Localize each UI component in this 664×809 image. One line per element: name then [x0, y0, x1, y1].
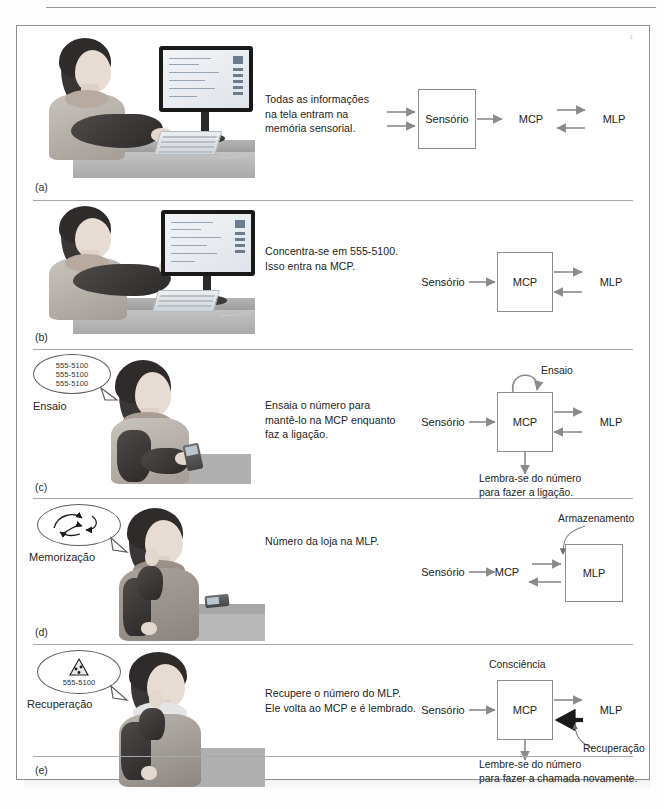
node-mlp-c-label: MLP	[600, 416, 623, 428]
panel-e-rule	[33, 756, 633, 757]
annotation-ensaio-c: Ensaio	[541, 364, 573, 378]
node-sensorio-a-label: Sensório	[425, 113, 468, 125]
scene-d-woman-thinking-phone-on-desk	[105, 506, 265, 641]
annotation-lembre-e-line-1: Lembre-se do número	[479, 758, 637, 772]
node-mlp-b: MLP	[589, 272, 633, 292]
bubble-c-line-1: 555-5100	[56, 361, 89, 370]
node-sensorio-e: Sensório	[417, 700, 469, 720]
node-mlp-d-label: MLP	[583, 567, 606, 579]
node-sensorio-b-label: Sensório	[421, 276, 464, 288]
caption-a-line-2: na tela entram na	[265, 107, 395, 122]
node-mcp-c: MCP	[497, 392, 553, 452]
bubble-c-label: Ensaio	[33, 400, 67, 412]
caption-b: Concentra-se em 555-5100. Isso entra na …	[265, 244, 435, 273]
figure-page: ¹	[0, 0, 664, 809]
keyboard-icon	[154, 131, 223, 155]
diagram-e: Consciência Sensório MCP MLP Recuperação…	[417, 650, 637, 780]
annotation-recuperacao-e: Recuperação	[583, 742, 645, 756]
panel-d-letter: (d)	[35, 626, 48, 638]
node-sensorio-c-label: Sensório	[421, 416, 464, 428]
node-mcp-e: MCP	[497, 680, 553, 740]
panel-d-rule	[33, 644, 633, 645]
node-mcp-c-label: MCP	[513, 416, 537, 428]
node-mcp-a: MCP	[509, 109, 553, 129]
panel-c-rule	[33, 498, 633, 499]
node-mcp-b-label: MCP	[513, 276, 537, 288]
node-sensorio-e-label: Sensório	[421, 704, 464, 716]
node-mlp-a: MLP	[592, 109, 636, 129]
scene-a-woman-typing-at-computer	[43, 32, 253, 177]
node-mlp-b-label: MLP	[600, 276, 623, 288]
node-sensorio-a: Sensório	[418, 89, 476, 149]
panel-c-letter: (c)	[35, 481, 47, 493]
swirl-arrows-icon	[48, 510, 110, 540]
node-mlp-e-label: MLP	[600, 704, 623, 716]
caption-a-line-3: memória sensorial.	[265, 121, 395, 136]
bubble-c-line-2: 555-5100	[56, 370, 89, 379]
diagram-a: Sensório MCP MLP	[387, 76, 637, 166]
corner-mark: ¹	[630, 36, 635, 42]
node-mcp-e-label: MCP	[513, 704, 537, 716]
node-sensorio-c: Sensório	[417, 412, 469, 432]
scene-e-woman-on-phone-call	[105, 652, 265, 787]
phone-on-desk-icon	[204, 594, 229, 608]
node-mcp-d: MCP	[485, 562, 529, 582]
node-mcp-b: MCP	[497, 252, 553, 312]
panel-a-rule	[33, 200, 633, 201]
caption-a-line-1: Todas as informações	[265, 92, 395, 107]
pizza-slice-icon	[67, 657, 91, 677]
annotation-armazenamento-d: Armazenamento	[558, 512, 634, 526]
node-sensorio-d: Sensório	[417, 562, 469, 582]
annotation-lembre-e-line-2: para fazer a chamada novamente.	[479, 772, 637, 786]
caption-c-line-2: mantê-lo na MCP enquanto	[265, 413, 441, 428]
caption-c-line-1: Ensaia o número para	[265, 398, 441, 413]
node-mlp-e: MLP	[589, 700, 633, 720]
scene-b-woman-pointing-at-screen	[43, 202, 253, 334]
diagram-b: Sensório MCP MLP	[417, 238, 637, 326]
scene-c-woman-dialing-phone	[101, 356, 251, 484]
panel-a-letter: (a)	[35, 181, 48, 193]
node-mcp-a-label: MCP	[519, 113, 543, 125]
caption-b-line-1: Concentra-se em 555-5100.	[265, 244, 435, 259]
caption-b-line-2: Isso entra na MCP.	[265, 259, 435, 274]
annotation-consciencia-e: Consciência	[489, 658, 546, 672]
annotation-lembra-c: Lembra-se do número para fazer a ligação…	[479, 472, 581, 500]
bubble-e-number: 555-5100	[63, 678, 96, 687]
diagram-c: Sensório MCP MLP Ensaio Lembra-se do núm…	[417, 362, 637, 492]
top-running-rule	[46, 7, 656, 8]
panel-e-letter: (e)	[35, 764, 48, 776]
node-mlp-d: MLP	[565, 544, 623, 602]
annotation-lembra-c-line-1: Lembra-se do número	[479, 472, 581, 486]
node-sensorio-d-label: Sensório	[421, 566, 464, 578]
node-sensorio-b: Sensório	[417, 272, 469, 292]
bubble-d-label: Memorização	[29, 551, 95, 563]
node-mlp-a-label: MLP	[603, 113, 626, 125]
panel-b-letter: (b)	[35, 331, 48, 343]
caption-a: Todas as informações na tela entram na m…	[265, 92, 395, 136]
bubble-e-label: Recuperação	[27, 698, 92, 710]
annotation-lembre-e: Lembre-se do número para fazer a chamada…	[479, 758, 637, 786]
node-mlp-c: MLP	[589, 412, 633, 432]
bubble-c-line-3: 555-5100	[56, 379, 89, 388]
node-mcp-d-label: MCP	[495, 566, 519, 578]
figure-frame: ¹	[16, 25, 650, 780]
monitor-icon	[159, 46, 253, 112]
panel-b-rule	[33, 349, 633, 350]
caption-c: Ensaia o número para mantê-lo na MCP enq…	[265, 398, 441, 442]
diagram-d: Sensório MCP MLP Armazenamento	[417, 512, 637, 622]
caption-c-line-3: faz a ligação.	[265, 427, 441, 442]
